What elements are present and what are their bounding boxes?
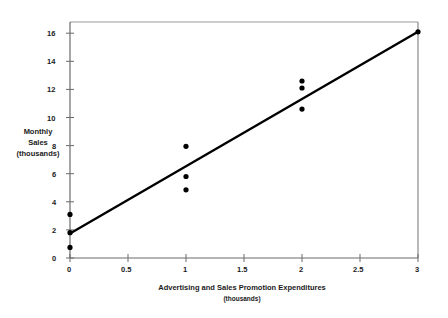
data-point — [67, 245, 72, 250]
y-axis-title-line3: (thousands) — [6, 148, 70, 159]
x-tick-label-0: 0 — [67, 265, 71, 274]
x-tick-label-0.5: 0.5 — [121, 265, 131, 274]
y-tick-label-10: 10 — [47, 114, 55, 123]
x-tick-label-2.5: 2.5 — [353, 265, 363, 274]
y-axis-title-line2: Sales — [6, 137, 70, 148]
x-axis-title: Advertising and Sales Promotion Expendit… — [64, 282, 420, 304]
y-tick-label-0: 0 — [52, 254, 56, 263]
data-point — [299, 78, 304, 83]
y-tick-label-6: 6 — [52, 170, 56, 179]
data-point — [183, 187, 188, 192]
x-axis-title-main: Advertising and Sales Promotion Expendit… — [64, 282, 420, 293]
x-axis-title-sub: (thousands) — [64, 293, 420, 304]
data-point — [299, 106, 304, 111]
data-point — [415, 29, 420, 34]
data-point — [183, 144, 188, 149]
y-axis-title: Monthly Sales (thousands) — [6, 126, 70, 159]
data-point — [183, 174, 188, 179]
regression-trendline — [70, 32, 418, 234]
y-tick-label-16: 16 — [47, 29, 55, 38]
scatter-chart-figure: 0 2 4 6 8 10 12 14 16 0 0.5 1 1.5 2 2.5 … — [0, 0, 448, 318]
plot-frame — [70, 22, 418, 258]
y-tick-label-4: 4 — [52, 198, 56, 207]
data-point — [67, 212, 72, 217]
x-tick-label-1: 1 — [183, 265, 187, 274]
y-tick-label-14: 14 — [47, 57, 55, 66]
y-tick-label-12: 12 — [47, 85, 55, 94]
x-tick-label-1.5: 1.5 — [237, 265, 247, 274]
data-point — [299, 85, 304, 90]
x-tick-label-2: 2 — [299, 265, 303, 274]
y-tick-label-2: 2 — [52, 226, 56, 235]
y-axis-title-line1: Monthly — [6, 126, 70, 137]
x-tick-label-3: 3 — [415, 265, 419, 274]
data-point — [67, 230, 72, 235]
